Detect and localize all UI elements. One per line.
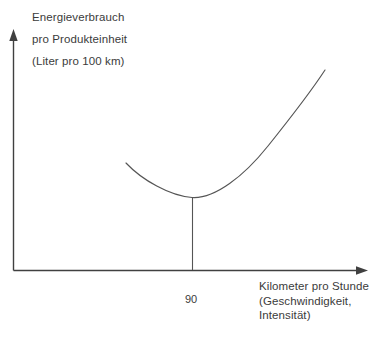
diagram-canvas: Energieverbrauch pro Produkteinheit (Lit… [0, 0, 379, 338]
x-axis-label: Kilometer pro Stunde (Geschwindigkeit, I… [259, 279, 369, 323]
y-axis-label-line-1: Energieverbrauch [32, 6, 127, 28]
up-arrow-icon [9, 29, 17, 41]
x-axis [14, 266, 369, 274]
right-arrow-icon [356, 266, 368, 274]
y-axis-label-line-3: (Liter pro 100 km) [32, 50, 127, 72]
x-axis-label-line-3: Intensität) [259, 308, 369, 323]
y-axis-label-line-2: pro Produkteinheit [32, 28, 127, 50]
x-axis-label-line-1: Kilometer pro Stunde [259, 279, 369, 294]
y-axis-label: Energieverbrauch pro Produkteinheit (Lit… [32, 6, 127, 72]
x-axis-label-line-2: (Geschwindigkeit, [259, 294, 369, 309]
consumption-curve [126, 70, 325, 198]
y-axis [9, 29, 17, 271]
x-axis-tick-label-90: 90 [185, 293, 197, 305]
